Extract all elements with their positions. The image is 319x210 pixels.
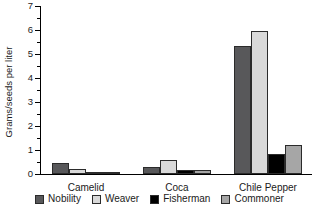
y-tick-mark (35, 102, 40, 103)
legend-swatch-icon (221, 195, 230, 204)
y-axis-line (40, 6, 41, 174)
bar (234, 46, 251, 174)
y-tick-label: 0 (28, 169, 33, 179)
y-tick-label: 2 (28, 121, 33, 131)
legend-swatch-icon (92, 195, 101, 204)
x-axis-line (40, 174, 312, 175)
legend-item[interactable]: Fisherman (150, 193, 210, 205)
y-tick-mark (35, 6, 40, 7)
legend-label: Fisherman (163, 193, 210, 205)
bar (251, 31, 268, 174)
legend-item[interactable]: Commoner (221, 193, 283, 205)
y-tick-label: 5 (28, 49, 33, 59)
y-axis-title: Grams/seeds per liter (2, 2, 16, 182)
y-tick-mark (37, 114, 40, 115)
bar (103, 172, 120, 174)
legend-swatch-icon (35, 195, 44, 204)
y-tick-label: 1 (28, 145, 33, 155)
legend-swatch-icon (150, 195, 159, 204)
y-tick-label: 6 (28, 25, 33, 35)
bar (177, 170, 194, 174)
bar (268, 154, 285, 174)
bar (194, 170, 211, 174)
y-tick-label: 4 (28, 73, 33, 83)
legend-item[interactable]: Nobility (35, 193, 81, 205)
y-tick-label: 7 (28, 1, 33, 11)
y-tick-mark (35, 78, 40, 79)
chart-legend: NobilityWeaverFishermanCommoner (0, 191, 319, 207)
y-tick-mark (37, 138, 40, 139)
y-tick-label: 3 (28, 97, 33, 107)
y-tick-mark (35, 54, 40, 55)
y-tick-mark (37, 18, 40, 19)
y-tick-mark (35, 126, 40, 127)
y-tick-mark (37, 90, 40, 91)
bar (285, 145, 302, 174)
bar (69, 169, 86, 174)
bar (52, 163, 69, 174)
bar (143, 167, 160, 174)
legend-label: Weaver (105, 193, 139, 205)
y-tick-mark (37, 66, 40, 67)
bar (160, 160, 177, 174)
legend-item[interactable]: Weaver (92, 193, 139, 205)
bar-chart: Grams/seeds per liter 01234567 CamelidCo… (0, 0, 319, 210)
y-tick-mark (35, 30, 40, 31)
legend-label: Nobility (48, 193, 81, 205)
legend-label: Commoner (234, 193, 283, 205)
y-tick-mark (37, 42, 40, 43)
bar (86, 172, 103, 174)
y-tick-mark (35, 174, 40, 175)
y-tick-mark (35, 150, 40, 151)
y-tick-mark (37, 162, 40, 163)
plot-area: 01234567 CamelidCocaChile Pepper (40, 6, 312, 174)
